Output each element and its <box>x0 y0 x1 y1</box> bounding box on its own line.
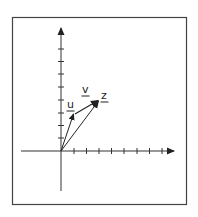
label-u: u <box>67 98 75 111</box>
label-u-text: u <box>67 98 74 111</box>
label-z: z <box>101 89 109 102</box>
label-z-text: z <box>101 89 107 102</box>
vector-u <box>61 114 74 151</box>
diagram-canvas: u v z <box>0 0 198 217</box>
diagram-frame <box>13 18 187 205</box>
vector-v <box>75 101 98 115</box>
label-v-text: v <box>82 83 89 96</box>
vector-diagram: u v z <box>0 0 198 217</box>
label-v: v <box>82 83 90 96</box>
